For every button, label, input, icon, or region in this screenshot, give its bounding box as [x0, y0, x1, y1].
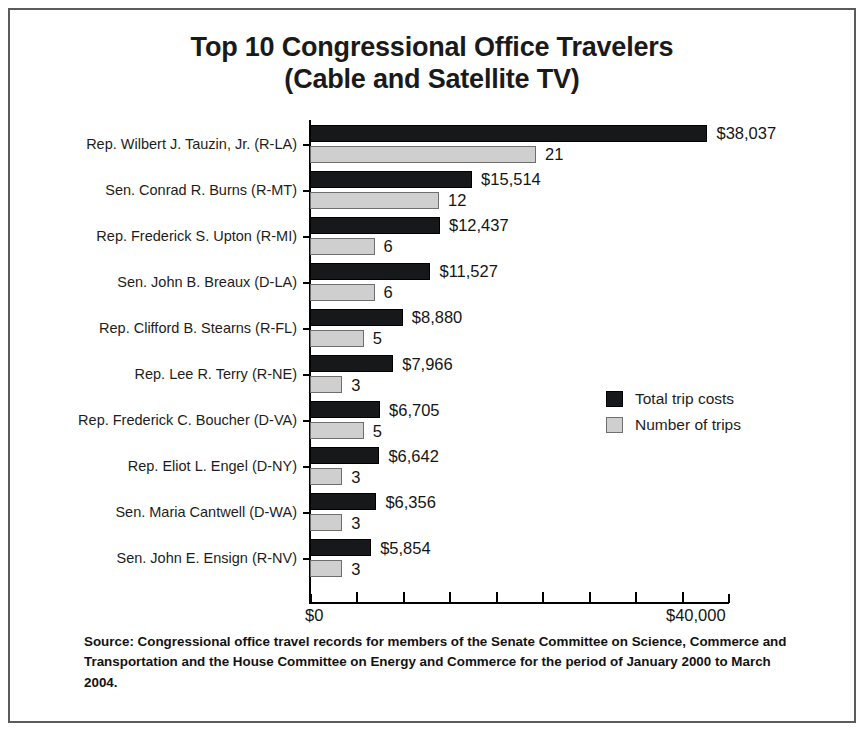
- legend-item-number-of-trips: Number of trips: [606, 412, 741, 438]
- x-axis-line: [309, 602, 729, 604]
- bar-value-total-trip-costs: $5,854: [380, 538, 430, 557]
- source-note: Source: Congressional office travel reco…: [84, 632, 790, 693]
- x-axis-tick: [635, 592, 637, 602]
- x-axis-min-label: $0: [305, 606, 323, 625]
- x-axis-tick: [449, 592, 451, 602]
- chart-legend: Total trip costs Number of trips: [606, 386, 741, 438]
- bar-number-of-trips: [310, 560, 342, 577]
- y-axis-tick: [303, 282, 310, 284]
- legend-item-total-trip-costs: Total trip costs: [606, 386, 741, 412]
- x-axis-tick: [496, 592, 498, 602]
- x-axis-end-cap: [728, 594, 730, 603]
- bar-total-trip-costs: [310, 171, 472, 188]
- category-label: Rep. Frederick C. Boucher (D-VA): [78, 412, 297, 428]
- bar-value-total-trip-costs: $12,437: [449, 216, 509, 235]
- bar-value-total-trip-costs: $7,966: [402, 354, 452, 373]
- bar-number-of-trips: [310, 422, 364, 439]
- bar-value-total-trip-costs: $11,527: [439, 262, 497, 281]
- category-label: Sen. Conrad R. Burns (R-MT): [105, 182, 297, 198]
- bar-value-total-trip-costs: $38,037: [716, 124, 776, 143]
- bar-value-number-of-trips: 5: [373, 421, 382, 440]
- bar-number-of-trips: [310, 192, 439, 209]
- bar-number-of-trips: [310, 238, 375, 255]
- x-axis-tick: [356, 592, 358, 602]
- bar-value-number-of-trips: 3: [351, 467, 360, 486]
- bar-number-of-trips: [310, 284, 375, 301]
- x-axis-end-cap: [310, 594, 312, 603]
- bar-total-trip-costs: [310, 217, 440, 234]
- x-axis-max-label: $40,000: [666, 606, 726, 625]
- bar-value-number-of-trips: 21: [545, 145, 563, 164]
- category-label: Sen. John B. Breaux (D-LA): [117, 274, 297, 290]
- bar-value-number-of-trips: 6: [384, 237, 393, 256]
- plot-area: Rep. Wilbert J. Tauzin, Jr. (R-LA)$38,03…: [0, 0, 864, 731]
- category-label: Rep. Frederick S. Upton (R-MI): [96, 228, 297, 244]
- y-axis-tick: [303, 144, 310, 146]
- bar-number-of-trips: [310, 468, 342, 485]
- y-axis-tick: [303, 558, 310, 560]
- bar-value-total-trip-costs: $15,514: [481, 170, 541, 189]
- chart-figure: Top 10 Congressional Office Travelers (C…: [0, 0, 864, 731]
- y-axis-tick: [303, 374, 310, 376]
- category-label: Sen. John E. Ensign (R-NV): [116, 550, 297, 566]
- bar-total-trip-costs: [310, 447, 379, 464]
- bar-total-trip-costs: [310, 125, 707, 142]
- category-label: Rep. Wilbert J. Tauzin, Jr. (R-LA): [86, 136, 297, 152]
- bar-total-trip-costs: [310, 401, 380, 418]
- bar-total-trip-costs: [310, 355, 393, 372]
- y-axis-tick: [303, 466, 310, 468]
- bar-value-number-of-trips: 6: [384, 283, 393, 302]
- bar-value-total-trip-costs: $6,642: [388, 446, 438, 465]
- bar-value-number-of-trips: 3: [351, 559, 360, 578]
- bar-value-total-trip-costs: $8,880: [412, 308, 462, 327]
- x-axis-tick: [542, 592, 544, 602]
- bar-value-number-of-trips: 3: [351, 513, 360, 532]
- x-axis-tick: [403, 592, 405, 602]
- bar-total-trip-costs: [310, 493, 376, 510]
- y-axis-tick: [303, 190, 310, 192]
- bar-total-trip-costs: [310, 263, 430, 280]
- bar-value-total-trip-costs: $6,356: [385, 492, 435, 511]
- y-axis-tick: [303, 420, 310, 422]
- bar-value-total-trip-costs: $6,705: [389, 400, 439, 419]
- bar-number-of-trips: [310, 514, 342, 531]
- category-label: Rep. Eliot L. Engel (D-NY): [128, 458, 297, 474]
- bar-number-of-trips: [310, 376, 342, 393]
- bar-number-of-trips: [310, 330, 364, 347]
- category-label: Rep. Lee R. Terry (R-NE): [135, 366, 298, 382]
- category-label: Rep. Clifford B. Stearns (R-FL): [99, 320, 297, 336]
- bar-value-number-of-trips: 5: [373, 329, 382, 348]
- legend-swatch-icon-number-of-trips: [606, 417, 623, 433]
- category-label: Sen. Maria Cantwell (D-WA): [115, 504, 297, 520]
- y-axis-tick: [303, 236, 310, 238]
- legend-label-number-of-trips: Number of trips: [635, 416, 741, 434]
- bar-number-of-trips: [310, 146, 536, 163]
- x-axis-tick: [682, 592, 684, 602]
- y-axis-tick: [303, 328, 310, 330]
- legend-label-total-trip-costs: Total trip costs: [635, 390, 734, 408]
- bar-total-trip-costs: [310, 539, 371, 556]
- bar-total-trip-costs: [310, 309, 403, 326]
- legend-swatch-icon-total-trip-costs: [606, 391, 623, 407]
- bar-value-number-of-trips: 3: [351, 375, 360, 394]
- bar-value-number-of-trips: 12: [448, 191, 466, 210]
- y-axis-tick: [303, 512, 310, 514]
- x-axis-tick: [589, 592, 591, 602]
